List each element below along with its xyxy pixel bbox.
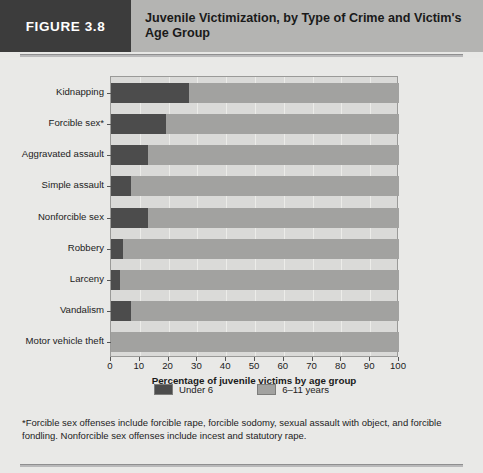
figure-panel: FIGURE 3.8 Juvenile Victimization, by Ty… xyxy=(0,0,483,473)
bar-segment-age6to11 xyxy=(120,270,399,290)
bar-row xyxy=(111,145,397,165)
y-axis-tick-mark xyxy=(107,311,111,312)
bar-row xyxy=(111,83,397,103)
x-axis-tick-label: 90 xyxy=(364,360,375,371)
bar-row xyxy=(111,270,397,290)
y-axis-label: Larceny xyxy=(0,274,104,284)
x-axis-tick-label: 70 xyxy=(306,360,317,371)
bar-row xyxy=(111,176,397,196)
figure-body: KidnappingForcible sex*Aggravated assaul… xyxy=(0,58,483,473)
bar-row xyxy=(111,332,397,352)
figure-footnote: *Forcible sex offenses include forcible … xyxy=(22,416,462,443)
bar-rows xyxy=(111,77,397,356)
y-axis-tick-mark xyxy=(107,249,111,250)
bar-segment-age6to11 xyxy=(131,301,399,321)
bar-segment-age6to11 xyxy=(111,332,399,352)
y-axis-tick-mark xyxy=(107,124,111,125)
bar-segment-under6 xyxy=(111,176,131,196)
y-axis-label: Aggravated assault xyxy=(0,149,104,159)
x-axis-tick-label: 60 xyxy=(277,360,288,371)
bar-segment-under6 xyxy=(111,145,148,165)
x-axis-tick-label: 50 xyxy=(249,360,260,371)
x-axis-tick-label: 100 xyxy=(390,360,406,371)
x-axis-tick-label: 10 xyxy=(133,360,144,371)
bar-segment-age6to11 xyxy=(131,176,399,196)
y-axis-tick-mark xyxy=(107,218,111,219)
x-axis-tick-label: 30 xyxy=(191,360,202,371)
y-axis-tick-mark xyxy=(107,186,111,187)
y-axis-label: Motor vehicle theft xyxy=(0,336,104,346)
y-axis-tick-mark xyxy=(107,93,111,94)
plot-area xyxy=(110,76,398,357)
x-axis-tick-label: 40 xyxy=(220,360,231,371)
legend-item-under6[interactable]: Under 6 xyxy=(154,384,213,395)
bar-segment-under6 xyxy=(111,208,148,228)
legend-swatch-under6 xyxy=(154,384,173,395)
chart-legend: Under 66–11 years xyxy=(0,384,483,395)
chart: KidnappingForcible sex*Aggravated assaul… xyxy=(0,72,483,372)
bar-segment-under6 xyxy=(111,301,131,321)
y-axis-category-labels: KidnappingForcible sex*Aggravated assaul… xyxy=(0,76,104,357)
x-axis-tick-label: 80 xyxy=(335,360,346,371)
y-axis-tick-mark xyxy=(107,342,111,343)
bar-segment-age6to11 xyxy=(189,83,399,103)
bar-segment-under6 xyxy=(111,270,120,290)
y-axis-label: Kidnapping xyxy=(0,87,104,97)
bar-segment-age6to11 xyxy=(148,208,399,228)
figure-header: FIGURE 3.8 Juvenile Victimization, by Ty… xyxy=(0,0,483,52)
bar-segment-under6 xyxy=(111,114,166,134)
bar-segment-age6to11 xyxy=(123,239,399,259)
y-axis-label: Robbery xyxy=(0,243,104,253)
figure-title: Juvenile Victimization, by Type of Crime… xyxy=(131,0,483,52)
legend-label: 6–11 years xyxy=(282,384,329,395)
legend-item-age6to11[interactable]: 6–11 years xyxy=(257,384,329,395)
x-axis-tick-label: 0 xyxy=(107,360,112,371)
header-divider xyxy=(20,54,463,57)
y-axis-tick-mark xyxy=(107,155,111,156)
bar-row xyxy=(111,208,397,228)
legend-swatch-age6to11 xyxy=(257,384,276,395)
bar-row xyxy=(111,114,397,134)
legend-label: Under 6 xyxy=(179,384,213,395)
bar-row xyxy=(111,301,397,321)
footer-divider xyxy=(20,464,463,467)
figure-number-tag: FIGURE 3.8 xyxy=(0,0,131,52)
y-axis-label: Vandalism xyxy=(0,305,104,315)
y-axis-label: Nonforcible sex xyxy=(0,212,104,222)
bar-row xyxy=(111,239,397,259)
bar-segment-under6 xyxy=(111,83,189,103)
y-axis-tick-mark xyxy=(107,280,111,281)
y-axis-label: Simple assault xyxy=(0,180,104,190)
bar-segment-age6to11 xyxy=(166,114,399,134)
y-axis-label: Forcible sex* xyxy=(0,118,104,128)
x-axis-tick-label: 20 xyxy=(162,360,173,371)
bar-segment-age6to11 xyxy=(148,145,399,165)
bar-segment-under6 xyxy=(111,239,123,259)
x-axis-tick-labels: 0102030405060708090100 xyxy=(110,360,398,374)
